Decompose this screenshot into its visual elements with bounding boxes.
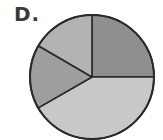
pie-chart: [0, 0, 163, 140]
